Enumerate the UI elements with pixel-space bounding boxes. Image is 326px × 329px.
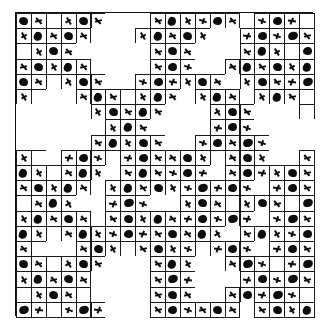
grid-cell	[135, 241, 151, 257]
grid-cell	[46, 287, 62, 303]
grid-cell	[240, 287, 256, 303]
grid-cell	[135, 195, 151, 211]
grid-cell	[269, 226, 285, 242]
grid-cell-empty	[46, 119, 62, 135]
grid-cell	[16, 302, 32, 318]
cross-mark-glyph	[288, 78, 296, 86]
cross-mark-glyph	[169, 93, 177, 101]
grid-cell	[284, 180, 300, 196]
cross-mark-glyph	[229, 260, 237, 268]
grid-cell	[269, 180, 285, 196]
cross-mark-glyph	[214, 184, 222, 192]
grid-cell-empty	[180, 135, 196, 151]
cross-mark-glyph	[258, 260, 266, 268]
grid-cell	[195, 211, 211, 227]
grid-cell	[46, 13, 62, 29]
blob-glyph	[63, 214, 74, 224]
cross-mark-glyph	[199, 93, 207, 101]
blob-glyph	[242, 153, 253, 163]
grid-cell	[299, 104, 315, 120]
cross-mark-glyph	[199, 306, 207, 314]
grid-cell-empty	[120, 256, 136, 272]
cross-mark-glyph	[35, 260, 43, 268]
blob-glyph	[168, 62, 178, 71]
cross-mark-glyph	[94, 230, 102, 238]
blob-glyph	[153, 183, 164, 193]
grid-cell	[31, 59, 47, 75]
blob-glyph	[197, 198, 208, 208]
grid-cell	[150, 271, 166, 287]
grid-cell	[284, 256, 300, 272]
cross-mark-glyph	[139, 32, 147, 40]
cross-mark-glyph	[80, 275, 88, 283]
grid-cell	[299, 271, 315, 287]
cross-mark-glyph	[154, 63, 162, 71]
grid-cell	[16, 74, 32, 90]
grid-cell	[299, 13, 315, 29]
grid-cell	[31, 302, 47, 318]
blob-glyph	[78, 16, 89, 26]
cross-mark-glyph	[139, 230, 147, 238]
cross-mark-glyph	[109, 123, 117, 131]
grid-cell-empty	[46, 241, 62, 257]
grid-cell	[284, 226, 300, 242]
cross-mark-glyph	[154, 139, 162, 147]
grid-cell-empty	[46, 135, 62, 151]
grid-cell	[61, 287, 77, 303]
cross-mark-glyph	[184, 230, 192, 238]
grid-cell	[76, 28, 92, 44]
grid-cell-empty	[284, 150, 300, 166]
grid-cell-empty	[46, 150, 62, 166]
cross-mark-glyph	[273, 78, 281, 86]
cross-mark-glyph	[243, 78, 251, 86]
grid-cell	[240, 226, 256, 242]
cross-mark-glyph	[65, 230, 73, 238]
grid-cell	[165, 211, 181, 227]
grid-cell	[105, 180, 121, 196]
grid-cell	[225, 89, 241, 105]
grid-cell	[299, 150, 315, 166]
blob-glyph	[138, 153, 148, 162]
grid-cell	[180, 287, 196, 303]
blob-glyph	[19, 77, 30, 87]
blob-glyph	[302, 76, 314, 86]
blob-glyph	[213, 138, 223, 147]
cross-mark-glyph	[303, 154, 311, 162]
grid-cell	[105, 135, 121, 151]
blob-glyph	[271, 92, 282, 104]
cross-mark-glyph	[154, 47, 162, 55]
cross-mark-glyph	[184, 260, 192, 268]
grid-cell	[91, 241, 107, 257]
grid-cell	[284, 195, 300, 211]
cross-mark-glyph	[94, 260, 102, 268]
grid-cell	[299, 59, 315, 75]
grid-cell-empty	[91, 287, 107, 303]
cross-mark-glyph	[288, 291, 296, 299]
grid-cell	[165, 180, 181, 196]
grid-cell	[299, 180, 315, 196]
cross-mark-glyph	[80, 215, 88, 223]
grid-cell-empty	[150, 195, 166, 211]
grid-cell	[240, 180, 256, 196]
cross-mark-glyph	[80, 93, 88, 101]
grid-cell	[240, 104, 256, 120]
grid-cell	[299, 226, 315, 242]
cross-mark-glyph	[288, 63, 296, 71]
grid-cell	[210, 89, 226, 105]
grid-cell	[225, 180, 241, 196]
grid-cell	[225, 241, 241, 257]
grid-cell	[180, 226, 196, 242]
cross-mark-glyph	[65, 17, 73, 25]
blob-glyph	[272, 289, 284, 299]
grid-cell	[254, 271, 270, 287]
grid-cell	[150, 59, 166, 75]
cross-mark-glyph	[258, 291, 266, 299]
grid-cell	[16, 43, 32, 59]
grid-cell	[46, 256, 62, 272]
grid-cell	[269, 59, 285, 75]
blob-glyph	[63, 183, 74, 195]
grid-cell-empty	[210, 165, 226, 181]
grid-cell	[225, 135, 241, 151]
grid-cell	[105, 150, 121, 166]
grid-cell	[135, 28, 151, 44]
